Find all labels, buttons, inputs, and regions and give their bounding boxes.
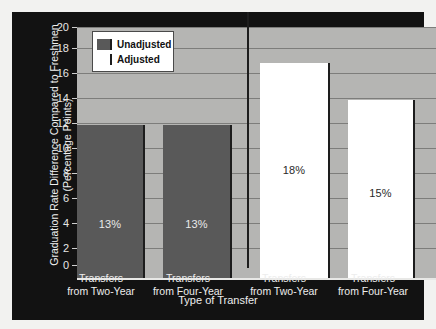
- legend-item-adjusted[interactable]: Adjusted: [97, 52, 168, 66]
- gridline-14: [77, 98, 436, 99]
- x-category-line1: Transfers: [166, 272, 210, 284]
- y-tick-label: 6: [63, 191, 72, 205]
- bar-value-label: 18%: [260, 164, 328, 176]
- y-tick-12: 12: [57, 116, 77, 130]
- y-tick-20: 20: [57, 20, 77, 34]
- x-category-line1: Transfers: [262, 272, 306, 284]
- x-axis-label: Type of Transfer: [12, 294, 424, 306]
- y-tick-8: 8: [63, 166, 77, 180]
- y-tick-mark: [72, 173, 77, 174]
- bar-value-label: 15%: [348, 187, 413, 199]
- group-divider: [247, 12, 249, 268]
- y-tick-18: 18: [57, 41, 77, 55]
- gridline-20: [77, 27, 436, 28]
- legend-label-adjusted: Adjusted: [117, 54, 160, 65]
- y-tick-mark: [72, 223, 77, 224]
- y-tick-10: 10: [57, 141, 77, 155]
- x-category-line1: Transfers: [79, 272, 123, 284]
- y-tick-label: 16: [57, 66, 72, 80]
- y-tick-label: 12: [57, 116, 72, 130]
- legend-swatch-adjusted: [97, 54, 112, 65]
- y-tick-4: 4: [63, 216, 77, 230]
- y-tick-mark: [72, 48, 77, 49]
- y-tick-label: 4: [63, 216, 72, 230]
- bar-adjusted-four-year[interactable]: 15%: [348, 100, 415, 280]
- legend-item-unadjusted[interactable]: Unadjusted: [97, 37, 168, 51]
- y-tick-2: 2: [63, 241, 77, 255]
- bar-unadjusted-two-year[interactable]: 13%: [77, 125, 145, 280]
- y-tick-mark: [72, 123, 77, 124]
- bar-value-label: 13%: [163, 218, 230, 230]
- bar-value-label: 13%: [77, 218, 143, 230]
- y-tick-mark: [72, 27, 77, 28]
- y-tick-label: 18: [57, 41, 72, 55]
- x-category-line1: Transfers: [351, 272, 395, 284]
- y-tick-label: 2: [63, 241, 72, 255]
- y-tick-mark: [72, 248, 77, 249]
- y-tick-mark: [72, 73, 77, 74]
- y-tick-mark: [72, 148, 77, 149]
- legend-label-unadjusted: Unadjusted: [117, 39, 171, 50]
- y-tick-label: 10: [57, 141, 72, 155]
- y-tick-mark: [72, 98, 77, 99]
- chart-screenshot: Graduation Rate Difference Compared to F…: [0, 0, 436, 329]
- y-tick-mark: [72, 198, 77, 199]
- y-tick-label: 20: [57, 20, 72, 34]
- y-tick-label: 8: [63, 166, 72, 180]
- bar-adjusted-two-year[interactable]: 18%: [260, 63, 330, 280]
- legend-swatch-unadjusted: [97, 39, 112, 50]
- gridline-16: [77, 73, 436, 74]
- y-tick-6: 6: [63, 191, 77, 205]
- y-tick-16: 16: [57, 66, 77, 80]
- legend: Unadjusted Adjusted: [92, 31, 174, 72]
- y-tick-label: 14: [57, 91, 72, 105]
- y-tick-14: 14: [57, 91, 77, 105]
- y-tick-mark: [72, 265, 77, 266]
- bar-unadjusted-four-year[interactable]: 13%: [163, 125, 232, 280]
